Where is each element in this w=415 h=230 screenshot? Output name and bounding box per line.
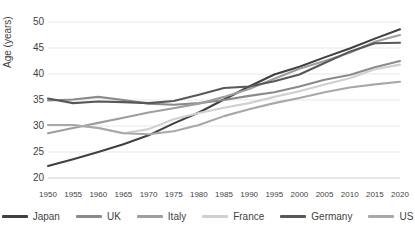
- x-tick-label-1950: 1950: [35, 190, 61, 199]
- legend-swatch-icon: [76, 215, 102, 218]
- x-tick-label-1955: 1955: [60, 190, 86, 199]
- x-tick-label-2010: 2010: [337, 190, 363, 199]
- x-tick-label-2020: 2020: [387, 190, 413, 199]
- legend-label: Germany: [311, 211, 352, 222]
- y-tick-label-30: 30: [14, 121, 44, 131]
- series-line-germany: [48, 43, 400, 103]
- legend-swatch-icon: [202, 215, 228, 218]
- plot-area: [48, 22, 400, 178]
- series-lines: [48, 29, 400, 166]
- legend-label: France: [233, 211, 264, 222]
- legend-item-italy[interactable]: Italy: [137, 211, 186, 222]
- legend-label: Japan: [33, 211, 60, 222]
- x-tick-label-1975: 1975: [161, 190, 187, 199]
- legend-swatch-icon: [368, 215, 394, 218]
- line-chart: Age (years) 50454035302520 1950195519601…: [0, 0, 415, 230]
- x-tick-label-1970: 1970: [136, 190, 162, 199]
- x-tick-label-2000: 2000: [286, 190, 312, 199]
- y-tick-label-25: 25: [14, 147, 44, 157]
- x-tick-label-2015: 2015: [362, 190, 388, 199]
- y-tick-label-40: 40: [14, 69, 44, 79]
- x-tick-label-1990: 1990: [236, 190, 262, 199]
- legend-swatch-icon: [280, 215, 306, 218]
- x-tick-label-1960: 1960: [85, 190, 111, 199]
- x-tick-label-1980: 1980: [186, 190, 212, 199]
- legend-label: US: [399, 211, 413, 222]
- legend-label: Italy: [168, 211, 186, 222]
- legend-label: UK: [107, 211, 121, 222]
- legend-swatch-icon: [137, 215, 163, 218]
- x-tick-label-1995: 1995: [261, 190, 287, 199]
- legend-item-japan[interactable]: Japan: [2, 211, 60, 222]
- legend-item-us[interactable]: US: [368, 211, 413, 222]
- x-tick-label-1965: 1965: [110, 190, 136, 199]
- x-tick-label-2005: 2005: [312, 190, 338, 199]
- legend-item-uk[interactable]: UK: [76, 211, 121, 222]
- legend-item-germany[interactable]: Germany: [280, 211, 352, 222]
- legend-swatch-icon: [2, 215, 28, 218]
- legend-item-france[interactable]: France: [202, 211, 264, 222]
- chart-legend: JapanUKItalyFranceGermanyUS: [0, 205, 415, 227]
- y-tick-label-45: 45: [14, 43, 44, 53]
- y-axis-title: Age (years): [2, 16, 13, 68]
- x-tick-label-1985: 1985: [211, 190, 237, 199]
- y-tick-label-20: 20: [14, 173, 44, 183]
- series-line-uk: [48, 61, 400, 105]
- plot-svg: [48, 22, 400, 178]
- y-tick-label-50: 50: [14, 17, 44, 27]
- y-tick-label-35: 35: [14, 95, 44, 105]
